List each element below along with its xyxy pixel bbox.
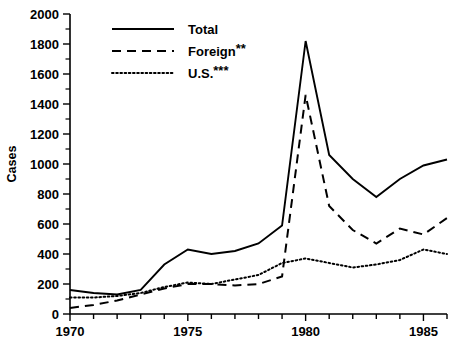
y-tick-label: 600 [37,217,59,232]
x-tick-label: 1980 [291,324,320,339]
chart-legend: TotalForeign**U.S.*** [112,22,247,81]
data-series [70,41,447,308]
series-line-us [70,250,447,298]
x-tick-label: 1985 [409,324,438,339]
y-tick-label: 1000 [30,157,59,172]
series-line-total [70,41,447,295]
legend-label: Foreign** [188,41,247,59]
y-tick-label: 0 [52,307,59,322]
y-tick-label: 400 [37,247,59,262]
y-tick-label: 800 [37,187,59,202]
legend-label: Total [188,22,218,37]
y-tick-label: 2000 [30,7,59,22]
line-chart: 0200400600800100012001400160018002000197… [0,0,461,352]
chart-container: 0200400600800100012001400160018002000197… [0,0,461,352]
x-tick-label: 1975 [173,324,202,339]
x-tick-label: 1970 [56,324,85,339]
series-line-foreign [70,95,447,308]
legend-label: U.S.*** [188,63,229,81]
y-tick-label: 1400 [30,97,59,112]
y-tick-label: 200 [37,277,59,292]
y-tick-label: 1200 [30,127,59,142]
y-tick-label: 1600 [30,67,59,82]
y-tick-label: 1800 [30,37,59,52]
y-axis-title: Cases [5,146,19,183]
